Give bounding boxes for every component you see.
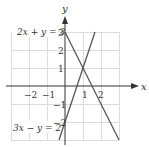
x-tick-label: −1 — [42, 90, 55, 100]
y-tick-label: 2 — [58, 46, 64, 56]
x-axis-label: x — [141, 81, 147, 92]
y-axis-arrow-icon — [62, 16, 68, 24]
equation-label-2: 3x − y = 2 — [13, 123, 61, 133]
y-tick-label: 1 — [58, 64, 64, 74]
coordinate-graph: x y −2 −1 1 2 3 2 1 −1 −2 2x + y = 3 3x … — [0, 0, 149, 147]
y-axis-label: y — [61, 3, 68, 14]
x-axis-arrow-icon — [131, 83, 139, 89]
x-tick-label: 1 — [82, 90, 88, 100]
equation-label-1: 2x + y = 3 — [16, 27, 65, 37]
x-tick-label: 2 — [98, 90, 104, 100]
x-tick-label: −2 — [24, 90, 37, 100]
y-tick-label: −1 — [53, 100, 66, 110]
